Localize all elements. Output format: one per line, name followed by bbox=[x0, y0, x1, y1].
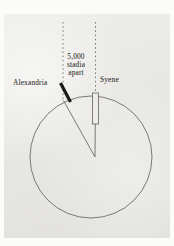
gnomon-syene-well bbox=[93, 93, 99, 124]
figure-page: Alexandria Syene 5,000 stadia apart bbox=[0, 0, 174, 246]
gnomon-alexandria-shadow-stick bbox=[61, 83, 71, 102]
label-syene: Syene bbox=[100, 76, 119, 84]
label-distance-apart-word: apart bbox=[61, 69, 91, 77]
label-alexandria: Alexandria bbox=[13, 79, 47, 87]
earth-circle bbox=[30, 96, 152, 218]
angle-ray-to-alexandria bbox=[64, 101, 96, 158]
label-distance-apart: 5,000 stadia apart bbox=[61, 53, 91, 78]
eratosthenes-diagram bbox=[0, 0, 174, 246]
